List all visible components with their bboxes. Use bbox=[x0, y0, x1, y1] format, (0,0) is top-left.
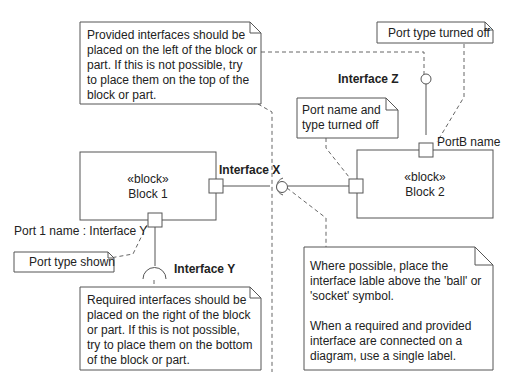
socket-icon bbox=[143, 268, 166, 280]
anchor-porttypeoff-to-portb bbox=[437, 44, 464, 142]
svg-text:Port name and: Port name and bbox=[302, 103, 381, 117]
svg-text:interface are connected on a: interface are connected on a bbox=[310, 334, 462, 348]
diagram-canvas: Provided interfaces should be placed on … bbox=[0, 0, 513, 387]
ball-icon bbox=[277, 182, 288, 193]
note-port-type-shown: Port type shown bbox=[14, 252, 115, 272]
svg-text:part. If this is not possible,: part. If this is not possible, try bbox=[87, 58, 242, 72]
svg-text:Where possible, place the: Where possible, place the bbox=[310, 259, 448, 273]
svg-text:placed on the left of the bloc: placed on the left of the block or bbox=[87, 43, 257, 57]
block-1-stereotype: «block» bbox=[127, 172, 169, 186]
svg-text:Port type shown: Port type shown bbox=[29, 255, 115, 269]
interface-y-socket: Interface Y bbox=[143, 262, 235, 279]
svg-text:or part. If this is not possib: or part. If this is not possible, bbox=[87, 323, 240, 337]
interface-x-label: Interface X bbox=[219, 163, 280, 177]
note-port-name-type-off: Port name and type turned off bbox=[297, 98, 398, 138]
interface-x-ball-socket bbox=[277, 178, 350, 195]
block-2-port-b[interactable] bbox=[419, 143, 433, 157]
interface-z-label: Interface Z bbox=[338, 72, 399, 86]
svg-text:diagram, use a single label.: diagram, use a single label. bbox=[310, 349, 456, 363]
svg-text:'socket' symbol.: 'socket' symbol. bbox=[310, 289, 394, 303]
note-provided-interfaces: Provided interfaces should be placed on … bbox=[80, 22, 261, 104]
svg-text:interface lable above the 'bal: interface lable above the 'ball' or bbox=[310, 274, 481, 288]
port-1-label: Port 1 name : Interface Y bbox=[14, 224, 147, 238]
svg-text:of the block or part.: of the block or part. bbox=[87, 353, 190, 367]
note-label-placement: Where possible, place the interface labl… bbox=[304, 247, 493, 370]
block-2-stereotype: «block» bbox=[404, 170, 446, 184]
anchor-x-to-labelnote bbox=[287, 188, 326, 247]
block-1[interactable]: «block» Block 1 bbox=[80, 152, 216, 220]
port-b-label: PortB name bbox=[437, 135, 501, 149]
block-2[interactable]: «block» Block 2 bbox=[357, 150, 493, 218]
svg-text:to place them on the top of th: to place them on the top of the bbox=[87, 73, 249, 87]
svg-text:Required interfaces should be: Required interfaces should be bbox=[87, 293, 247, 307]
svg-text:try to place them on the botto: try to place them on the bottom bbox=[87, 338, 252, 352]
interface-y-label: Interface Y bbox=[174, 262, 235, 276]
note-port-type-off: Port type turned off bbox=[377, 22, 493, 43]
svg-text:When a required and provided: When a required and provided bbox=[310, 319, 471, 333]
block-1-port-y[interactable] bbox=[148, 213, 162, 227]
block-1-port-x[interactable] bbox=[209, 179, 223, 193]
note-required-interfaces: Required interfaces should be placed on … bbox=[80, 287, 261, 370]
block-1-name: Block 1 bbox=[128, 187, 168, 201]
block-2-name: Block 2 bbox=[405, 185, 445, 199]
svg-text:type turned off: type turned off bbox=[302, 118, 379, 132]
svg-text:Provided interfaces should be: Provided interfaces should be bbox=[87, 28, 245, 42]
svg-text:Port type turned off: Port type turned off bbox=[388, 26, 491, 40]
anchor-portname-to-port bbox=[326, 138, 349, 177]
svg-text:placed on the right of the blo: placed on the right of the block bbox=[87, 308, 251, 322]
ball-icon bbox=[421, 74, 431, 84]
svg-text:block or part.: block or part. bbox=[87, 88, 156, 102]
block-2-port-x[interactable] bbox=[349, 179, 363, 193]
